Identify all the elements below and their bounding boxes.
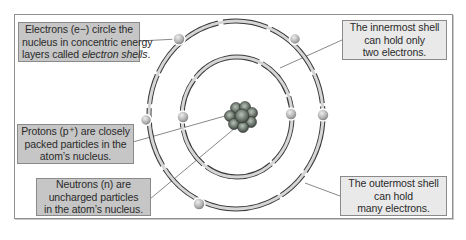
protons-line-3: atom’s nucleus. bbox=[21, 150, 130, 163]
electron-icon bbox=[177, 111, 189, 123]
outermost-line-1: The outermost shell bbox=[344, 177, 443, 190]
outermost-line-2: can hold bbox=[344, 190, 443, 203]
electrons-line-3-text: layers called bbox=[22, 48, 82, 60]
electrons-line-1: Electrons (e−) circle the bbox=[22, 23, 136, 36]
protons-line-1: Protons (p⁺) are closely bbox=[21, 125, 130, 138]
innermost-line-1: The innermost shell bbox=[346, 21, 443, 34]
neutrons-label: Neutrons (n) are uncharged particles in … bbox=[36, 178, 151, 216]
protons-label: Protons (p⁺) are closely packed particle… bbox=[17, 124, 134, 164]
electrons-line-2: nucleus in concentric energy bbox=[22, 36, 136, 49]
nucleus-icon bbox=[225, 102, 258, 133]
electrons-label: Electrons (e−) circle the nucleus in con… bbox=[18, 22, 140, 62]
electron-icon bbox=[193, 198, 205, 210]
innermost-line-2: can hold only bbox=[346, 34, 443, 47]
electron-icon bbox=[285, 108, 297, 120]
leader-outermost bbox=[305, 183, 340, 196]
innermost-shell-label: The innermost shell can hold only two el… bbox=[342, 20, 447, 60]
protons-line-2: packed particles in the bbox=[21, 138, 130, 151]
neutrons-line-3: in the atom’s nucleus. bbox=[40, 203, 147, 216]
electron-icon bbox=[141, 115, 152, 126]
innermost-line-3: two electrons. bbox=[346, 46, 443, 59]
electrons-line-3-suffix: . bbox=[148, 48, 151, 60]
electron-shells-term: electron shells bbox=[82, 48, 148, 60]
electron-icon bbox=[173, 33, 185, 45]
outermost-shell-label: The outermost shell can hold many electr… bbox=[340, 176, 447, 216]
electron-icon bbox=[317, 109, 329, 121]
neutrons-line-2: uncharged particles bbox=[40, 191, 147, 204]
electron-icon bbox=[290, 34, 301, 45]
outermost-line-3: many electrons. bbox=[344, 202, 443, 215]
electrons-line-3: layers called electron shells. bbox=[22, 48, 136, 61]
neutrons-line-1: Neutrons (n) are bbox=[40, 178, 147, 191]
